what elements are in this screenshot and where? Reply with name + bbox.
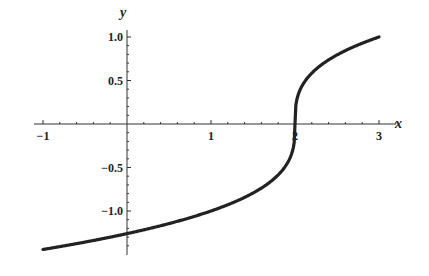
y-tick-label: 0.5 [108, 74, 123, 88]
x-tick-label: 3 [376, 129, 382, 143]
axes [34, 30, 396, 255]
y-tick-label: −1.0 [101, 204, 123, 218]
x-tick-label: 1 [208, 129, 214, 143]
function-curve [43, 37, 379, 249]
x-axis-label: x [394, 116, 402, 131]
ticks [43, 37, 396, 246]
y-tick-label: −0.5 [101, 161, 123, 175]
chart-canvas: −11231.00.5−0.5−1.0 x y [0, 0, 429, 276]
y-axis-label: y [118, 5, 127, 20]
y-tick-label: 1.0 [108, 30, 123, 44]
x-tick-label: −1 [37, 129, 50, 143]
